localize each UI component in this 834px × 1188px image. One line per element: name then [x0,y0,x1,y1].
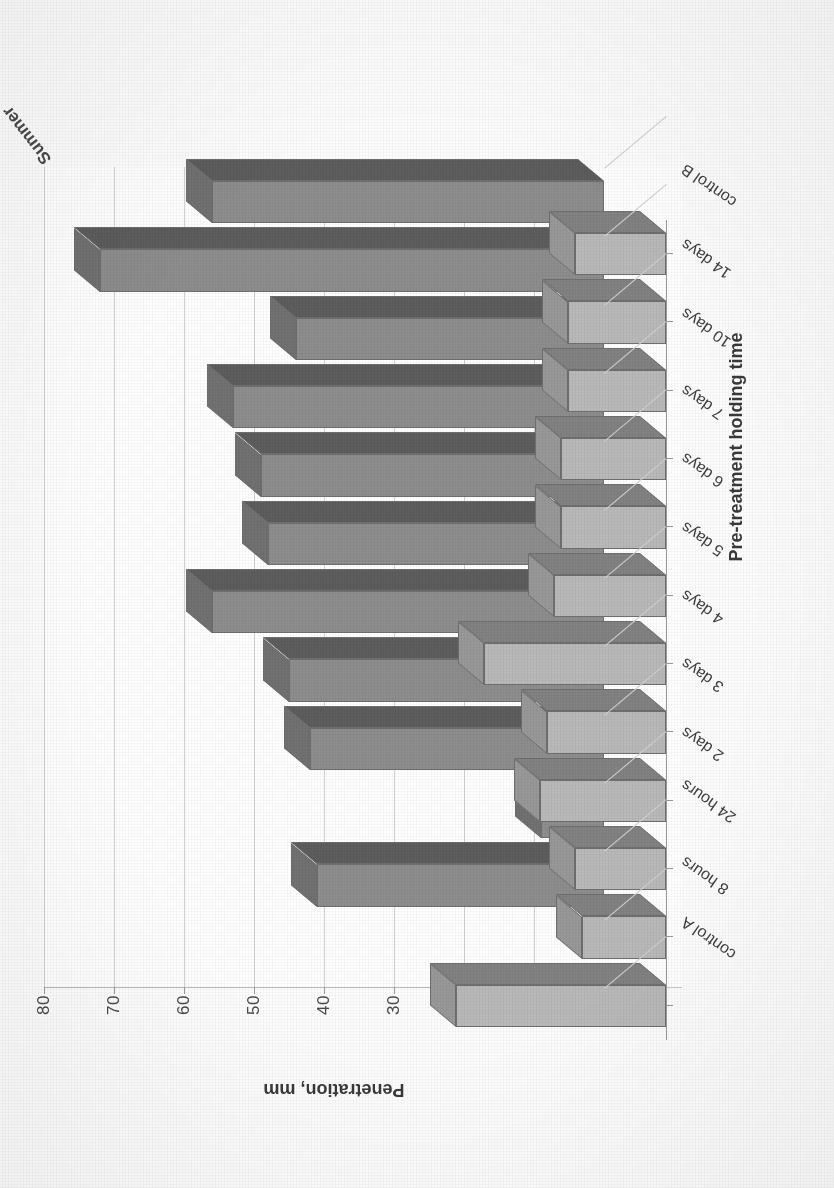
bar-side-face [74,228,604,250]
category-axis-tick [666,732,673,733]
bar-summer-5 [484,643,666,685]
bar-summer-4 [547,711,666,753]
depth-gridline [604,116,667,169]
bar-summer-9 [568,370,666,412]
value-axis-tick-label: 60 [174,995,194,1015]
category-label-2-days: 2 days [678,723,727,765]
bar-front-face [561,438,666,480]
category-label-control-B: control B [678,160,740,211]
bar-front-face [568,370,666,412]
value-axis-tick-label: 70 [104,995,124,1015]
bar-front-face [484,643,666,685]
bar-front-face [554,575,666,617]
value-gridline [44,167,45,987]
value-axis-tick [324,987,325,994]
bar-side-face [186,159,604,181]
bar-front-face [582,916,666,958]
category-axis-tick [666,527,673,528]
value-axis-tick-label: 40 [314,995,334,1015]
value-axis-tick [254,987,255,994]
category-axis-tick [666,1005,673,1006]
bar-front-face [568,301,666,343]
category-label-24-hours: 24 hours [678,776,739,826]
bar-summer-1 [582,916,666,958]
category-axis-tick [666,390,673,391]
bar-front-face [561,506,666,548]
rotated-chart-stage: Penetration, mm 01020304050607080 contro… [0,0,834,1188]
bar-summer-6 [554,575,666,617]
plot-area: Penetration, mm 01020304050607080 contro… [34,96,734,1096]
category-label-5-days: 5 days [678,518,727,560]
category-axis-tick [666,937,673,938]
bar-front-face [212,181,604,223]
bar-summer-11 [575,233,666,275]
bar-front-face [100,249,604,291]
category-axis-tick [666,322,673,323]
front-baseline [666,220,667,1040]
category-label-7-days: 7 days [678,381,727,423]
category-label-14-days: 14 days [678,236,734,283]
series-label-summer: Summer [0,102,56,168]
category-axis-tick [666,595,673,596]
bar-winter-11 [212,181,604,223]
bar-summer-10 [568,301,666,343]
bar-summer-2 [575,848,666,890]
bar-winter-10 [100,249,604,291]
category-label-4-days: 4 days [678,586,727,628]
category-label-8-hours: 8 hours [678,853,732,898]
bar-front-face [456,985,666,1027]
bar-front-face [575,233,666,275]
category-label-control-A: control A [678,913,739,963]
value-axis-title: Penetration, mm [263,1079,404,1100]
bar-side-face [458,621,666,643]
category-label-3-days: 3 days [678,655,727,697]
value-axis-tick-label: 80 [34,995,54,1015]
value-axis-tick [184,987,185,994]
value-axis-tick-label: 50 [244,995,264,1015]
value-axis-tick [44,987,45,994]
chart-page: Penetration, mm 01020304050607080 contro… [0,0,834,1188]
value-axis-tick [394,987,395,994]
value-axis-tick-label: 30 [384,995,404,1015]
bar-summer-7 [561,506,666,548]
category-axis-title: Pre-treatment holding time [726,333,747,562]
bar-summer-0 [456,985,666,1027]
category-axis-tick [666,800,673,801]
bar-front-face [547,711,666,753]
category-label-6-days: 6 days [678,450,727,492]
value-axis-tick [114,987,115,994]
bar-front-face [575,848,666,890]
bar-summer-8 [561,438,666,480]
